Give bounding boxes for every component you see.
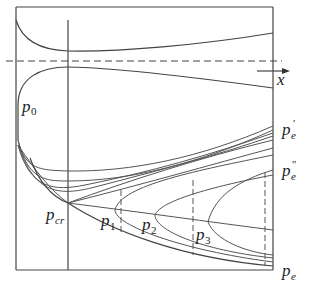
svg-text:p: p [141,215,151,234]
svg-text:p: p [195,225,205,244]
label-pe-double-prime: p e ″ [281,158,297,182]
pressure-curves [18,126,273,266]
nozzle-pressure-diagram: x p 0 p cr p 1 [0,0,315,290]
label-p2: p 2 [141,215,157,236]
svg-text:p: p [281,161,291,180]
label-pcr: p cr [45,205,65,226]
svg-text:0: 0 [31,105,37,117]
label-p3: p 3 [195,225,211,246]
label-pe: p e [281,261,296,282]
svg-text:p: p [45,205,55,224]
svg-text:p: p [21,97,31,116]
svg-text:p: p [281,261,291,280]
svg-text:2: 2 [151,224,157,236]
svg-text:1: 1 [110,220,116,232]
svg-text:p: p [281,120,291,139]
nozzle-lower-wall [18,67,273,140]
label-pe-prime: p e ′ [281,117,296,141]
svg-text:e: e [291,129,296,141]
svg-text:e: e [291,270,296,282]
svg-text:p: p [100,211,110,230]
label-p1: p 1 [100,211,116,232]
label-p0: p 0 [21,97,37,117]
svg-text:″: ″ [292,158,297,170]
svg-text:cr: cr [55,214,65,226]
svg-text:e: e [291,170,296,182]
svg-text:′: ′ [293,117,295,129]
x-axis-label: x [276,70,285,89]
svg-text:3: 3 [205,234,211,246]
nozzle-upper-wall [16,20,273,51]
